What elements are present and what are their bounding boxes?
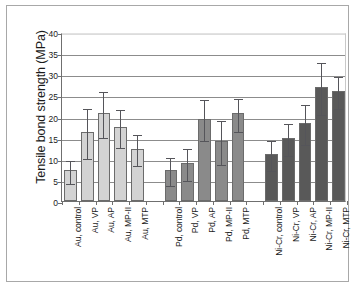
error-bar-cap-upper xyxy=(317,63,326,64)
error-bar-cap-upper xyxy=(200,100,209,101)
error-bar-cap-lower xyxy=(166,186,175,187)
error-bar-cap-lower xyxy=(133,166,142,167)
y-tick-label: 15 xyxy=(49,135,58,145)
bar-slot xyxy=(64,34,77,201)
error-bar-cap-upper xyxy=(234,99,243,100)
bar-slot xyxy=(215,34,228,201)
bar-slot xyxy=(98,34,111,201)
bar-slot xyxy=(315,34,328,201)
error-bar xyxy=(120,110,121,149)
x-tick-label: Au, control xyxy=(73,207,83,247)
error-bar xyxy=(338,77,339,109)
bar-slot xyxy=(232,34,245,201)
error-bar-cap-lower xyxy=(284,156,293,157)
figure-frame: Tensile bond strength (MPa) 051015202530… xyxy=(6,5,349,282)
error-bar xyxy=(137,135,138,165)
bar-slot xyxy=(265,34,278,201)
y-tick-label: 20 xyxy=(49,114,58,124)
error-bar-cap-lower xyxy=(66,184,75,185)
error-bar xyxy=(103,92,104,138)
bar-slot xyxy=(165,34,178,201)
x-tick-label: Pd, MTP xyxy=(241,207,251,240)
error-bar-cap-upper xyxy=(166,158,175,159)
x-tick-label: Au, VP xyxy=(90,207,100,233)
x-tick-label: Ni-Cr, AP xyxy=(308,207,318,241)
y-tick-label: 10 xyxy=(49,156,58,166)
error-bar-cap-upper xyxy=(183,149,192,150)
y-tick-label: 25 xyxy=(49,92,58,102)
y-tick-label: 35 xyxy=(49,50,58,60)
error-bar-cap-lower xyxy=(301,145,310,146)
x-tick-label: Pd, AP xyxy=(207,207,217,233)
error-bar-cap-upper xyxy=(267,141,276,142)
error-bar-cap-lower xyxy=(267,171,276,172)
x-tick-label: Au, AP xyxy=(106,207,116,233)
bar-series xyxy=(62,34,345,201)
y-axis-title: Tensile bond strength (MPa) xyxy=(34,7,48,207)
error-bar-cap-upper xyxy=(116,110,125,111)
error-bar xyxy=(170,158,171,186)
error-bar-cap-lower xyxy=(217,165,226,166)
x-tick-label: Ni-Cr, VP xyxy=(291,207,301,242)
x-tick-label: Pd, control xyxy=(174,207,184,247)
bar-slot xyxy=(181,34,194,201)
x-tick-label: Ni-Cr, control xyxy=(274,207,284,256)
y-tick-label: 30 xyxy=(49,71,58,81)
x-tick-label: Au, MP-II xyxy=(123,207,133,242)
x-tick-label: Au, MTP xyxy=(140,207,150,240)
error-bar-cap-upper xyxy=(83,109,92,110)
x-tick-label: Pd, MP-II xyxy=(224,207,234,242)
bar-slot xyxy=(114,34,127,201)
error-bar-cap-upper xyxy=(133,135,142,136)
bar-slot xyxy=(131,34,144,201)
error-bar-cap-upper xyxy=(99,92,108,93)
error-bar-cap-upper xyxy=(334,77,343,78)
x-axis-labels: Au, controlAu, VPAu, APAu, MP-IIAu, MTPP… xyxy=(61,202,346,287)
error-bar-cap-lower xyxy=(183,181,192,182)
error-bar xyxy=(70,161,71,184)
error-bar xyxy=(271,141,272,171)
error-bar-cap-lower xyxy=(116,148,125,149)
plot-area: 0510152025303540 xyxy=(61,33,346,202)
error-bar-cap-lower xyxy=(334,109,343,110)
x-tick-label: Pd, VP xyxy=(190,207,200,233)
chart-figure: Tensile bond strength (MPa) 051015202530… xyxy=(0,0,355,287)
error-bar xyxy=(238,99,239,132)
error-bar-cap-upper xyxy=(284,124,293,125)
bar-slot xyxy=(282,34,295,201)
error-bar-cap-upper xyxy=(66,161,75,162)
y-tick-label: 40 xyxy=(49,29,58,39)
error-bar-cap-upper xyxy=(217,121,226,122)
error-bar-cap-lower xyxy=(83,159,92,160)
bar-slot xyxy=(81,34,94,201)
bar-slot xyxy=(332,34,345,201)
error-bar-cap-lower xyxy=(234,132,243,133)
error-bar xyxy=(288,124,289,156)
error-bar xyxy=(305,105,306,145)
error-bar-cap-upper xyxy=(301,105,310,106)
x-tick-label: Ni-Cr, MP-II xyxy=(324,207,334,251)
bar-slot xyxy=(299,34,312,201)
error-bar-cap-lower xyxy=(99,138,108,139)
error-bar-cap-lower xyxy=(200,141,209,142)
error-bar-cap-lower xyxy=(317,115,326,116)
x-tick-label: Ni-Cr, MTP xyxy=(341,207,351,249)
error-bar xyxy=(204,100,205,141)
error-bar xyxy=(321,63,322,115)
error-bar xyxy=(221,121,222,165)
x-tick-mark xyxy=(347,201,348,205)
error-bar xyxy=(187,149,188,181)
error-bar xyxy=(87,109,88,160)
bar-slot xyxy=(198,34,211,201)
